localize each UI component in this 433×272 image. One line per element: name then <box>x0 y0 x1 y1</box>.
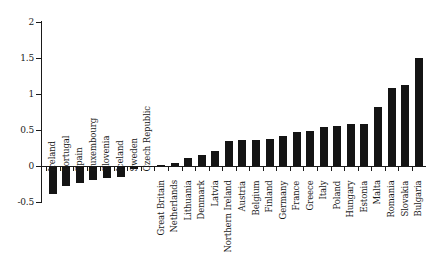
y-tick-label: 1 <box>4 90 34 99</box>
bar-chart: 21.510.50-0.5 IrelandPortugalSpainLuxemb… <box>0 0 433 272</box>
bar <box>238 140 246 166</box>
x-category-label: Northern Ireland <box>224 180 233 252</box>
x-tick-mark <box>344 167 345 171</box>
x-tick-mark <box>398 167 399 171</box>
y-tick-mark <box>36 58 41 59</box>
x-tick-mark <box>154 167 155 171</box>
bar <box>252 140 260 166</box>
x-category-label: Poland <box>332 181 341 210</box>
x-category-label: Finland <box>265 180 274 212</box>
x-tick-mark <box>195 167 196 171</box>
x-category-label: Portugal <box>61 136 70 172</box>
x-category-label: Italy <box>319 181 328 200</box>
x-category-label: Latvia <box>210 180 219 206</box>
y-tick-mark <box>36 166 41 167</box>
x-category-label: Great Britain <box>156 180 165 235</box>
bar <box>320 127 328 166</box>
x-tick-mark <box>222 167 223 171</box>
x-tick-mark <box>371 167 372 171</box>
bar <box>388 88 396 166</box>
x-category-label: Lithuania <box>183 180 192 220</box>
x-tick-mark <box>412 167 413 171</box>
y-tick-mark <box>36 202 41 203</box>
bar <box>347 124 355 166</box>
bar <box>401 85 409 166</box>
bar <box>184 158 192 166</box>
bar <box>293 132 301 166</box>
x-tick-mark <box>249 167 250 171</box>
x-category-label: Iceland <box>116 140 125 171</box>
y-tick-mark <box>36 130 41 131</box>
bar <box>225 141 233 166</box>
x-category-label: Netherlands <box>170 180 179 232</box>
x-tick-mark <box>290 167 291 171</box>
x-category-label: France <box>292 181 301 211</box>
x-category-label: Ireland <box>48 141 57 171</box>
x-tick-mark <box>317 167 318 171</box>
x-category-label: Hungary <box>346 180 355 217</box>
x-tick-mark <box>263 167 264 171</box>
x-category-label: Austria <box>237 181 246 212</box>
x-tick-mark <box>385 167 386 171</box>
bar <box>171 163 179 166</box>
x-category-label: Spain <box>75 147 84 171</box>
x-category-label: Czech Republic <box>143 106 152 172</box>
y-tick-mark <box>36 22 41 23</box>
x-category-label: Estonia <box>359 181 368 213</box>
x-axis-zero-line <box>41 166 426 167</box>
bar <box>157 165 165 166</box>
x-category-label: Denmark <box>197 181 206 220</box>
x-tick-mark <box>303 167 304 171</box>
x-tick-mark <box>236 167 237 171</box>
x-tick-mark <box>182 167 183 171</box>
x-category-label: Luxembourg <box>88 118 97 172</box>
y-axis-line <box>41 21 42 203</box>
x-category-label: Romania <box>387 180 396 217</box>
x-category-label: Slovakia <box>400 181 409 217</box>
bar <box>266 139 274 166</box>
bar <box>374 107 382 166</box>
x-category-label: Bulgaria <box>414 181 423 217</box>
x-category-label: Greece <box>305 180 314 210</box>
bar <box>415 58 423 166</box>
x-category-label: Malta <box>373 180 382 204</box>
y-tick-label: 2 <box>4 18 34 27</box>
y-tick-label: 1.5 <box>4 54 34 63</box>
y-tick-label: 0 <box>4 162 34 171</box>
y-tick-mark <box>36 94 41 95</box>
bar <box>306 131 314 166</box>
x-tick-mark <box>209 167 210 171</box>
bar <box>360 124 368 166</box>
x-category-label: Germany <box>278 181 287 220</box>
bar <box>333 126 341 166</box>
x-category-label: Sweden <box>129 138 138 171</box>
y-tick-label: 0.5 <box>4 126 34 135</box>
x-tick-mark <box>276 167 277 171</box>
x-tick-mark <box>358 167 359 171</box>
bar <box>211 151 219 166</box>
x-category-label: Slovenia <box>102 136 111 172</box>
y-tick-label: -0.5 <box>4 198 34 207</box>
x-tick-mark <box>331 167 332 171</box>
bar <box>279 136 287 166</box>
bar <box>198 155 206 166</box>
x-category-label: Belgium <box>251 181 260 216</box>
x-tick-mark <box>168 167 169 171</box>
